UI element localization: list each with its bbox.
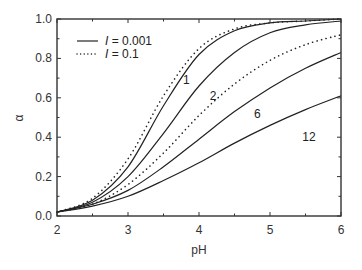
plot-frame — [57, 19, 341, 216]
x-axis-label: pH — [191, 243, 206, 257]
curve-labels: 12612 — [183, 73, 316, 144]
y-tick-label: 0.0 — [35, 209, 52, 223]
series-line-6-dotted — [57, 35, 341, 212]
alpha-vs-ph-chart: 23456 0.00.20.40.60.81.0 pH α 12612 I = … — [0, 0, 362, 270]
series-line-1-dotted — [57, 19, 341, 212]
series-layer — [57, 19, 341, 212]
x-tick-label: 2 — [54, 223, 61, 237]
x-tick-label: 6 — [338, 223, 345, 237]
curve-label-6: 6 — [254, 107, 261, 121]
curve-label-1: 1 — [183, 73, 190, 87]
x-tick-label: 5 — [267, 223, 274, 237]
y-tick-label: 0.2 — [35, 170, 52, 184]
y-tick-label: 0.8 — [35, 51, 52, 65]
y-axis: 0.00.20.40.60.81.0 — [35, 12, 341, 223]
series-line-6-solid — [57, 53, 341, 213]
y-axis-label: α — [12, 114, 26, 121]
legend: I = 0.001I = 0.1 — [77, 34, 152, 61]
curve-label-12: 12 — [302, 130, 316, 144]
legend-label: I = 0.1 — [105, 47, 139, 61]
y-tick-label: 1.0 — [35, 12, 52, 26]
legend-label: I = 0.001 — [105, 34, 152, 48]
x-tick-label: 4 — [196, 223, 203, 237]
series-line-2-solid — [57, 21, 341, 212]
x-axis: 23456 — [54, 19, 345, 237]
x-tick-label: 3 — [125, 223, 132, 237]
curve-label-2: 2 — [210, 89, 217, 103]
y-tick-label: 0.4 — [35, 130, 52, 144]
series-line-1-solid — [57, 19, 341, 212]
y-tick-label: 0.6 — [35, 91, 52, 105]
